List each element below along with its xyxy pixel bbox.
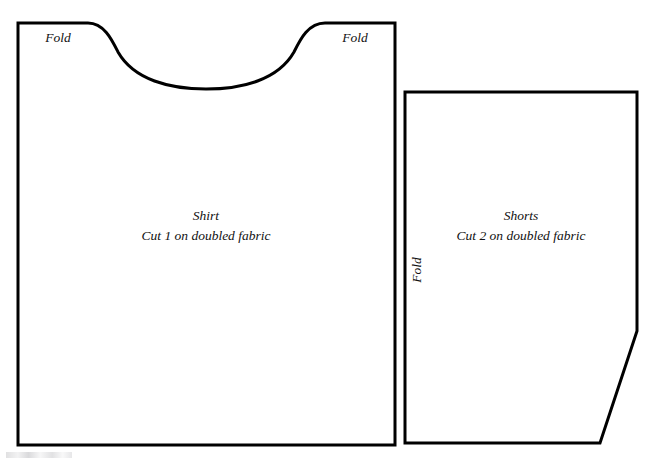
pattern-sheet: Shirt Cut 1 on doubled fabric Fold Fold … <box>0 0 662 468</box>
shorts-cut-instruction-label: Cut 2 on doubled fabric <box>457 228 586 243</box>
shirt-title-label: Shirt <box>193 208 221 223</box>
shirt-fold-label-left: Fold <box>44 30 71 45</box>
pattern-piece-shorts[interactable]: Shorts Cut 2 on doubled fabric Fold <box>405 92 637 443</box>
pattern-piece-shirt[interactable]: Shirt Cut 1 on doubled fabric Fold Fold <box>18 23 395 445</box>
shirt-fold-label-right: Fold <box>341 30 368 45</box>
shorts-outline[interactable] <box>405 92 637 443</box>
shorts-title-label: Shorts <box>504 208 539 223</box>
pattern-canvas: Shirt Cut 1 on doubled fabric Fold Fold … <box>0 0 662 468</box>
shirt-cut-instruction-label: Cut 1 on doubled fabric <box>142 228 271 243</box>
shorts-fold-label-left: Fold <box>409 257 424 284</box>
